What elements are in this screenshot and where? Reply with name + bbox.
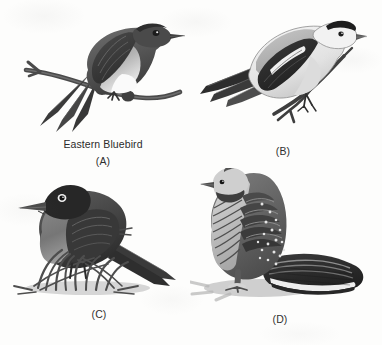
- tail: [108, 242, 176, 286]
- head: [18, 185, 91, 219]
- bird-goldfinch-icon: [198, 12, 368, 136]
- bird-robin-on-grass-icon: [10, 178, 188, 304]
- panel-label-b: (B): [198, 145, 368, 157]
- panel-c: [10, 178, 188, 304]
- panel-b: [198, 12, 368, 136]
- panel-label-d: (D): [190, 313, 370, 325]
- bird-perched-on-branch-icon: [18, 8, 188, 136]
- species-name-a: Eastern Bluebird: [18, 138, 188, 150]
- panel-a: [18, 8, 188, 136]
- panel-label-c: (C): [10, 308, 188, 320]
- bird-identification-figure: Eastern Bluebird (A): [0, 0, 382, 345]
- panel-label-a: (A): [18, 155, 188, 167]
- panel-d: [190, 168, 370, 308]
- bird-grouse-icon: [190, 168, 370, 308]
- head: [200, 168, 248, 203]
- head: [133, 24, 185, 48]
